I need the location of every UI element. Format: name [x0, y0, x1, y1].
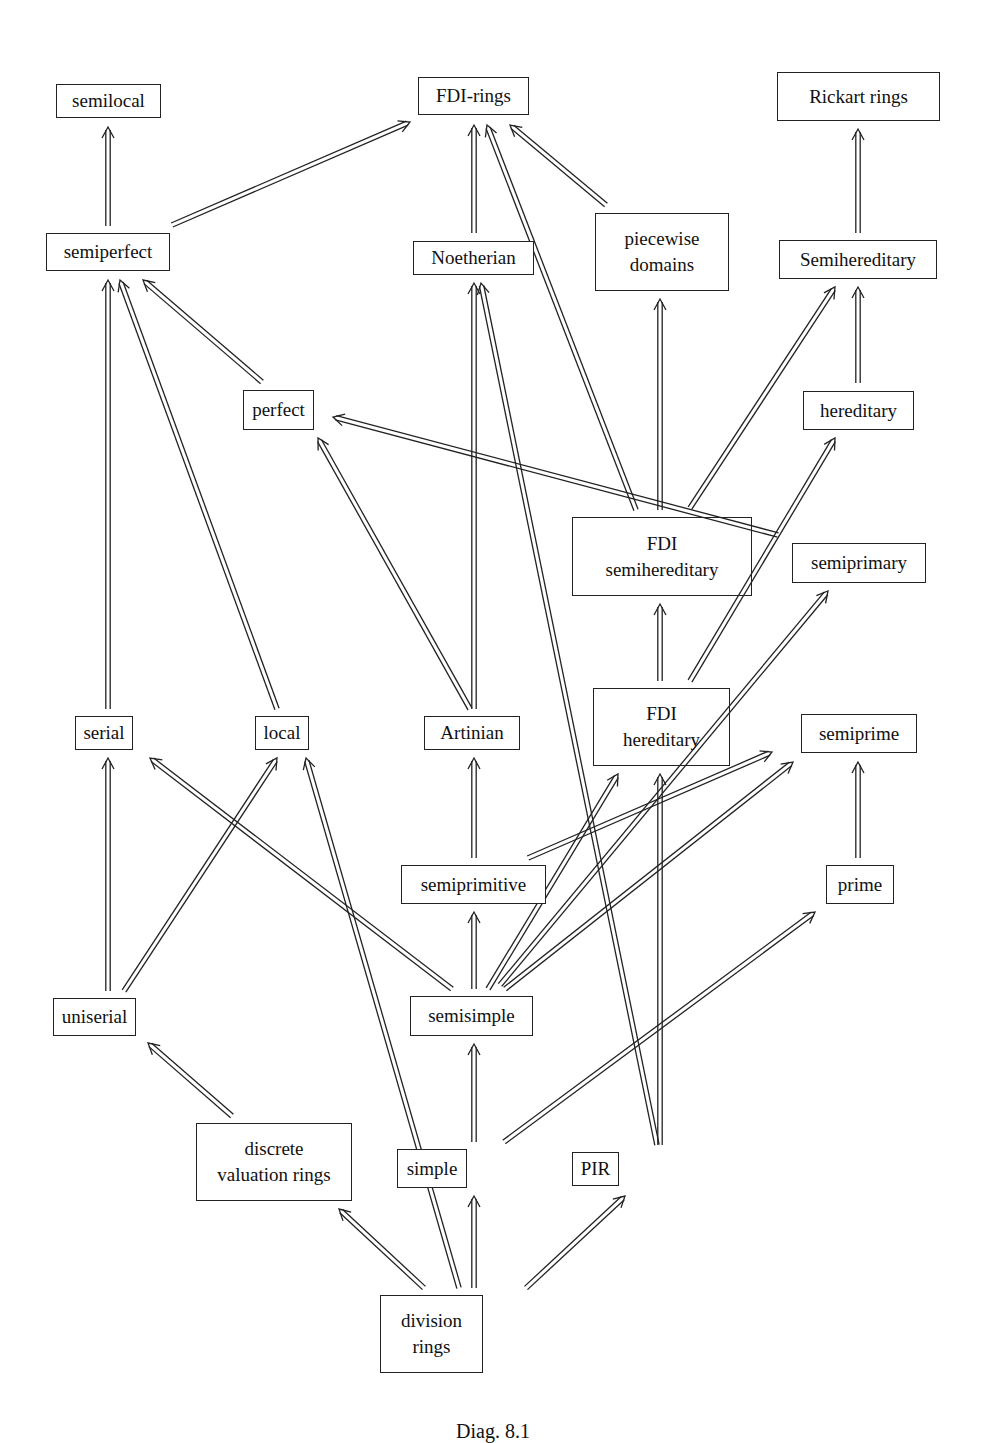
- node-label-line: semiprimitive: [421, 872, 527, 898]
- node-label-line: semihereditary: [606, 557, 719, 583]
- arrowhead-icon: [102, 280, 114, 291]
- node-label-line: semisimple: [428, 1003, 515, 1029]
- arrow-hereditary-to-semihereditary: [852, 287, 864, 383]
- node-fdi-hereditary: FDIhereditary: [593, 688, 730, 766]
- node-label-line: valuation rings: [217, 1162, 330, 1188]
- node-label-line: semilocal: [72, 88, 145, 114]
- node-noetherian: Noetherian: [413, 241, 534, 275]
- arrow-fdi-semihereditary-to-piecewise: [654, 299, 666, 510]
- node-label-line: uniserial: [62, 1004, 127, 1030]
- arrowhead-icon: [852, 287, 864, 298]
- node-division: divisionrings: [380, 1295, 483, 1373]
- arrow-semiperfect-to-fdi-rings: [171, 121, 410, 227]
- arrowhead-icon: [654, 604, 666, 615]
- node-label-line: semiprime: [819, 721, 899, 747]
- arrowhead-icon: [468, 125, 480, 136]
- node-simple: simple: [397, 1149, 467, 1188]
- arrow-semiprimitive-to-artinian: [468, 758, 480, 858]
- arrow-fdi-hereditary-to-fdi-semihereditary: [654, 604, 666, 681]
- arrowhead-icon: [102, 758, 114, 769]
- node-label-line: hereditary: [623, 727, 700, 753]
- node-pir: PIR: [572, 1152, 619, 1186]
- node-hereditary: hereditary: [803, 391, 914, 430]
- arrow-noetherian-to-fdi-rings: [468, 125, 480, 233]
- node-label-line: Rickart rings: [809, 84, 908, 110]
- arrow-perfect-to-semiperfect: [143, 280, 263, 384]
- node-label-line: serial: [83, 720, 124, 746]
- arrow-division-to-dvr: [339, 1209, 425, 1290]
- arrow-pir-to-fdi-hereditary: [654, 774, 666, 1145]
- node-label-line: FDI: [647, 531, 678, 557]
- node-semiprimary: semiprimary: [792, 543, 926, 583]
- node-semihereditary: Semihereditary: [779, 240, 937, 279]
- node-label-line: FDI-rings: [436, 83, 511, 109]
- diagram-caption: Diag. 8.1: [0, 1420, 986, 1443]
- node-label-line: Noetherian: [431, 245, 515, 271]
- arrow-piecewise-to-fdi-rings: [510, 125, 607, 207]
- arrow-fdi-semihereditary-to-fdi-rings: [485, 125, 638, 511]
- arrowhead-icon: [852, 762, 864, 773]
- arrow-simple-to-prime: [503, 912, 815, 1144]
- node-rickart: Rickart rings: [777, 72, 940, 121]
- node-perfect: perfect: [243, 390, 314, 430]
- node-label-line: perfect: [252, 397, 305, 423]
- arrow-artinian-to-noetherian: [468, 283, 480, 709]
- node-label-line: discrete: [244, 1136, 303, 1162]
- arrow-dvr-to-uniserial: [148, 1043, 233, 1118]
- node-fdi-semihereditary: FDIsemihereditary: [572, 517, 752, 596]
- arrow-uniserial-to-serial: [102, 758, 114, 991]
- node-semiperfect: semiperfect: [46, 233, 170, 271]
- arrow-division-to-simple: [468, 1196, 480, 1288]
- node-artinian: Artinian: [424, 716, 520, 750]
- node-label-line: local: [264, 720, 301, 746]
- node-label-line: semiperfect: [64, 239, 153, 265]
- arrow-semisimple-to-semiprime: [504, 762, 793, 991]
- arrowhead-icon: [468, 1196, 480, 1207]
- node-label-line: division: [401, 1308, 462, 1334]
- node-piecewise: piecewisedomains: [595, 213, 729, 291]
- node-label-line: rings: [413, 1334, 451, 1360]
- node-serial: serial: [75, 716, 133, 750]
- arrow-simple-to-semisimple: [468, 1044, 480, 1142]
- node-label-line: Semihereditary: [800, 247, 916, 273]
- arrow-semisimple-to-semiprimary: [498, 591, 828, 986]
- arrowhead-icon: [654, 299, 666, 310]
- node-label-line: FDI: [646, 701, 677, 727]
- arrow-semiperfect-to-semilocal: [102, 127, 114, 226]
- node-fdi-rings: FDI-rings: [418, 77, 529, 115]
- node-semiprimitive: semiprimitive: [401, 865, 546, 904]
- arrowhead-icon: [102, 127, 114, 138]
- node-prime: prime: [826, 865, 894, 904]
- implication-arrows: [102, 121, 864, 1290]
- arrow-semihereditary-to-rickart: [852, 129, 864, 233]
- node-label-line: semiprimary: [811, 550, 907, 576]
- node-label-line: hereditary: [820, 398, 897, 424]
- node-label-line: domains: [630, 252, 694, 278]
- arrowhead-icon: [303, 758, 315, 770]
- arrow-serial-to-semiperfect: [102, 280, 114, 709]
- arrowhead-icon: [333, 414, 345, 426]
- node-semisimple: semisimple: [410, 996, 533, 1036]
- arrow-artinian-to-perfect: [318, 438, 472, 710]
- arrowhead-icon: [852, 129, 864, 140]
- node-label-line: Artinian: [440, 720, 503, 746]
- node-local: local: [255, 716, 309, 750]
- node-uniserial: uniserial: [53, 998, 136, 1036]
- arrowhead-icon: [468, 758, 480, 769]
- node-dvr: discretevaluation rings: [196, 1123, 352, 1201]
- node-label-line: simple: [407, 1156, 458, 1182]
- arrow-division-to-pir: [525, 1196, 625, 1290]
- arrow-local-to-semiperfect: [118, 280, 279, 710]
- arrow-semisimple-to-semiprimitive: [468, 912, 480, 989]
- node-semilocal: semilocal: [56, 84, 161, 118]
- node-label-line: PIR: [581, 1156, 611, 1182]
- arrow-prime-to-semiprime: [852, 762, 864, 858]
- node-label-line: prime: [838, 872, 882, 898]
- arrowhead-icon: [468, 1044, 480, 1055]
- arrowhead-icon: [468, 912, 480, 923]
- node-label-line: piecewise: [625, 226, 700, 252]
- node-semiprime: semiprime: [801, 714, 917, 753]
